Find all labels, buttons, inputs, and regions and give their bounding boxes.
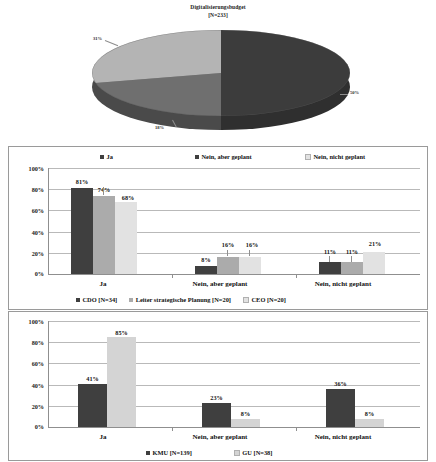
value-label-b-ja-kmu: 41% bbox=[78, 375, 107, 382]
ytick-0: 0% bbox=[10, 270, 44, 277]
ytick-40: 40% bbox=[10, 229, 44, 236]
bottom-bar-chart: 41% 85% 23% 8% 36% 8% 100% 80% 60% 40% 2… bbox=[0, 311, 436, 462]
value-label-b-nein-aber-gu: 8% bbox=[231, 410, 260, 417]
ytick-b-80: 80% bbox=[10, 339, 44, 346]
legend-swatch-kmu bbox=[146, 451, 150, 455]
middle-chart-bottom-legend: CDO [N=34] Leiter strategische Planung [… bbox=[76, 296, 286, 303]
value-label-b-nein-nicht-gu: 8% bbox=[355, 410, 384, 417]
value-label-b-nein-nicht-kmu: 36% bbox=[326, 380, 355, 387]
legend-label-nein-nicht-geplant: Nein, nicht geplant bbox=[314, 153, 366, 160]
middle-plot-area: 81% 74% 68% 8% 16% 16% 11% 11% 21% bbox=[48, 168, 420, 274]
bar-b-nein-aber-kmu[interactable] bbox=[202, 403, 231, 427]
leader-tick-4 bbox=[329, 256, 330, 262]
bottom-chart-legend: KMU [N=139] GU [N=38] bbox=[146, 449, 272, 456]
middle-chart-top-legend: Ja Nein, aber geplant Nein, nicht geplan… bbox=[100, 153, 400, 160]
legend-swatch-nein-nicht-geplant bbox=[305, 154, 311, 160]
legend-item-ja[interactable]: Ja bbox=[100, 153, 195, 160]
legend-item-kmu[interactable]: KMU [N=139] bbox=[146, 449, 192, 456]
legend-item-cdo[interactable]: CDO [N=34] bbox=[76, 296, 117, 303]
legend-label-ceo: CEO [N=20] bbox=[252, 296, 286, 303]
bar-b-nein-nicht-gu[interactable] bbox=[355, 419, 384, 428]
bar-b-nein-aber-gu[interactable] bbox=[231, 419, 260, 428]
legend-item-nein-nicht-geplant[interactable]: Nein, nicht geplant bbox=[305, 153, 365, 160]
bar-ja-cdo[interactable] bbox=[71, 188, 93, 274]
legend-item-nein-aber-geplant[interactable]: Nein, aber geplant bbox=[195, 153, 305, 160]
value-label-nein-aber-ceo: 16% bbox=[238, 241, 266, 248]
bar-b-nein-nicht-kmu[interactable] bbox=[326, 389, 355, 427]
bar-nein-nicht-cdo[interactable] bbox=[319, 262, 341, 274]
bar-ja-ceo[interactable] bbox=[115, 202, 137, 274]
bar-nein-nicht-leiter[interactable] bbox=[341, 262, 363, 274]
ytick-80: 80% bbox=[10, 186, 44, 193]
bottom-y-axis bbox=[48, 321, 49, 428]
middle-x-axis bbox=[48, 274, 420, 275]
gridline-b-80 bbox=[48, 342, 420, 343]
pie-title-line2: [N=233] bbox=[0, 11, 436, 19]
pie-chart-title: Digitalisierungsbudget [N=233] bbox=[0, 3, 436, 19]
leader-tick-5 bbox=[351, 256, 352, 262]
leader-tick-2 bbox=[227, 250, 228, 256]
category-separator-b-1 bbox=[172, 427, 173, 431]
legend-swatch-gu bbox=[234, 450, 240, 456]
legend-item-gu[interactable]: GU [N=38] bbox=[234, 449, 273, 456]
leader-tick-1 bbox=[103, 187, 104, 195]
legend-label-cdo: CDO [N=34] bbox=[83, 296, 118, 303]
pie-label-nein-aber-geplant: 18% bbox=[155, 125, 164, 130]
legend-label-leiter: Leiter strategische Planung [N=20] bbox=[136, 296, 231, 303]
ytick-b-20: 20% bbox=[10, 403, 44, 410]
pie-label-ja: 50% bbox=[350, 90, 359, 95]
category-separator-b-2 bbox=[296, 427, 297, 431]
value-label-b-ja-gu: 85% bbox=[107, 329, 136, 336]
bottom-x-axis bbox=[48, 427, 420, 428]
bar-b-ja-gu[interactable] bbox=[107, 337, 136, 427]
bar-nein-aber-ceo[interactable] bbox=[239, 257, 261, 274]
category-label-b-nein-aber-geplant: Nein, aber geplant bbox=[177, 433, 263, 441]
category-label-nein-nicht-geplant: Nein, nicht geplant bbox=[300, 280, 386, 288]
gridline-100 bbox=[48, 168, 420, 169]
bar-ja-leiter[interactable] bbox=[93, 196, 115, 274]
bottom-plot-area: 41% 85% 23% 8% 36% 8% bbox=[48, 321, 420, 427]
ytick-b-100: 100% bbox=[10, 318, 44, 325]
category-separator-1 bbox=[172, 274, 173, 278]
leader-tick-3 bbox=[249, 250, 250, 256]
ytick-b-0: 0% bbox=[10, 423, 44, 430]
legend-item-leiter[interactable]: Leiter strategische Planung [N=20] bbox=[129, 296, 231, 303]
bar-nein-aber-cdo[interactable] bbox=[195, 266, 217, 275]
category-label-nein-aber-geplant: Nein, aber geplant bbox=[177, 280, 263, 288]
ytick-100: 100% bbox=[10, 165, 44, 172]
ytick-60: 60% bbox=[10, 207, 44, 214]
value-label-nein-aber-cdo: 8% bbox=[192, 256, 220, 263]
category-label-ja: Ja bbox=[58, 280, 148, 288]
pie-graphic bbox=[92, 24, 350, 136]
pie-label-nein-nicht-geplant: 31% bbox=[93, 36, 102, 41]
value-label-nein-nicht-leiter: 11% bbox=[338, 248, 366, 255]
value-label-ja-leiter: 74% bbox=[90, 186, 118, 193]
gridline-b-100 bbox=[48, 321, 420, 322]
value-label-ja-ceo: 68% bbox=[114, 194, 142, 201]
pie-title-line1: Digitalisierungsbudget bbox=[0, 3, 436, 11]
ytick-b-40: 40% bbox=[10, 382, 44, 389]
pie-chart-section: Digitalisierungsbudget [N=233] 50% 18% 3… bbox=[0, 0, 436, 146]
bar-b-ja-kmu[interactable] bbox=[78, 384, 107, 428]
legend-swatch-leiter bbox=[129, 298, 133, 302]
legend-label-gu: GU [N=38] bbox=[242, 449, 272, 456]
bar-nein-nicht-ceo[interactable] bbox=[363, 252, 385, 274]
legend-item-ceo[interactable]: CEO [N=20] bbox=[243, 296, 286, 303]
value-label-ja-cdo: 81% bbox=[68, 178, 96, 185]
legend-swatch-nein-aber-geplant bbox=[195, 155, 199, 159]
category-separator-2 bbox=[296, 274, 297, 278]
category-label-b-ja: Ja bbox=[58, 433, 148, 441]
legend-swatch-cdo bbox=[76, 298, 80, 302]
ytick-b-60: 60% bbox=[10, 360, 44, 367]
middle-bar-chart: Ja Nein, aber geplant Nein, nicht geplan… bbox=[0, 146, 436, 311]
legend-label-nein-aber-geplant: Nein, aber geplant bbox=[202, 153, 252, 160]
pie-outline bbox=[92, 30, 350, 116]
legend-swatch-ceo bbox=[243, 297, 249, 303]
category-label-b-nein-nicht-geplant: Nein, nicht geplant bbox=[300, 433, 386, 441]
middle-y-axis bbox=[48, 168, 49, 275]
gridline-b-60 bbox=[48, 363, 420, 364]
ytick-20: 20% bbox=[10, 250, 44, 257]
bar-nein-aber-leiter[interactable] bbox=[217, 257, 239, 274]
pie-leader-right bbox=[340, 94, 348, 95]
legend-label-kmu: KMU [N=139] bbox=[153, 449, 192, 456]
